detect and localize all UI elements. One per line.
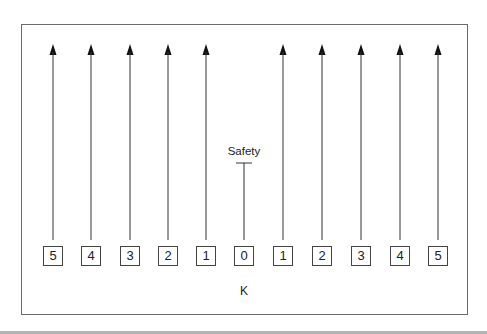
position-box: 2 [158,246,178,266]
position-box: 3 [120,246,140,266]
position-box: 5 [43,246,63,266]
position-box: 5 [428,246,448,266]
axis-label-k: K [234,284,254,298]
position-box: 0 [234,246,254,266]
position-box: 2 [312,246,332,266]
position-box: 1 [273,246,293,266]
position-box: 1 [196,246,216,266]
position-box: 3 [351,246,371,266]
position-box: 4 [390,246,410,266]
safety-label: Safety [224,145,264,157]
position-box: 4 [81,246,101,266]
